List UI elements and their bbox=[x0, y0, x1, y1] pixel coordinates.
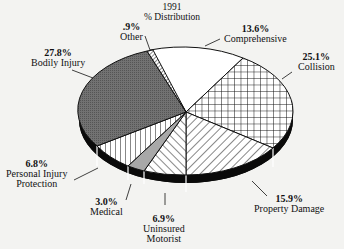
label-property-damage: 15.9% Property Damage bbox=[254, 194, 324, 214]
chart-title: 1991 bbox=[0, 3, 344, 12]
chart-subtitle: % Distribution bbox=[0, 13, 344, 22]
label-comprehensive: 13.6% Comprehensive bbox=[224, 24, 287, 44]
label-medical: 3.0% Medical bbox=[90, 197, 123, 217]
label-other: .9% Other bbox=[120, 22, 143, 42]
pie-top bbox=[78, 47, 293, 175]
label-collision: 25.1% Collision bbox=[298, 52, 335, 72]
label-uninsured-motorist: 6.9% Uninsured Motorist bbox=[143, 214, 185, 244]
label-bodily-injury: 27.8% Bodily Injury bbox=[31, 48, 85, 68]
label-personal-injury-protection: 6.8% Personal Injury Protection bbox=[6, 159, 67, 189]
